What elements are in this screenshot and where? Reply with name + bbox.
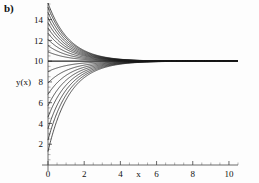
solution-curve (48, 61, 238, 151)
solution-curve (48, 52, 238, 61)
solution-curve (48, 18, 238, 62)
chart-plot: 0246810 2468101214 x y(x) (0, 0, 259, 183)
x-tick-label: 10 (224, 169, 234, 179)
y-tick-label: 4 (39, 119, 44, 129)
x-tick-label: 6 (154, 169, 159, 179)
y-tick-label: 8 (39, 77, 44, 87)
x-tick-label: 0 (46, 169, 51, 179)
x-axis-label: x (136, 169, 141, 179)
solution-curve (48, 28, 238, 61)
x-tick-label: 2 (82, 169, 87, 179)
solution-curve (48, 39, 238, 61)
solution-curve (48, 61, 238, 83)
y-tick-label: 2 (39, 139, 44, 149)
y-tick-label: 10 (34, 56, 44, 66)
y-axis-label: y(x) (16, 77, 31, 87)
solution-curve (48, 7, 238, 61)
x-tick-label: 4 (118, 169, 123, 179)
solution-curve (48, 61, 238, 94)
solution-curve (48, 61, 238, 106)
y-tick-label: 6 (39, 98, 44, 108)
x-tick-label: 8 (191, 169, 196, 179)
y-tick-label: 14 (34, 15, 44, 25)
curve-family (48, 3, 238, 152)
y-axis-tick-labels: 2468101214 (34, 15, 44, 150)
y-tick-label: 12 (34, 36, 43, 46)
solution-curve (48, 61, 238, 128)
